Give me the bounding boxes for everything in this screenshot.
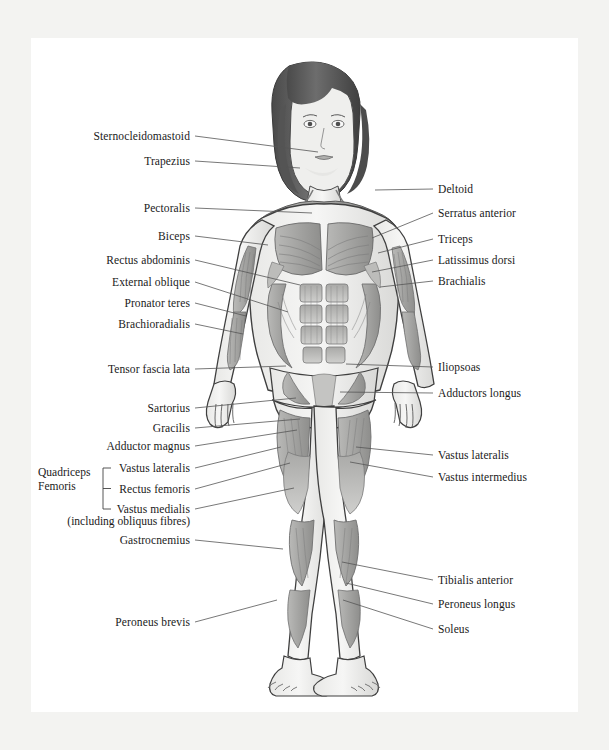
- leader-line: [378, 239, 433, 253]
- muscle-label: Iliopsoas: [438, 361, 480, 374]
- leader-line: [343, 600, 433, 629]
- leader-line: [372, 213, 433, 238]
- muscle-label: Gracilis: [153, 422, 190, 435]
- muscle-label: Peroneus brevis: [115, 616, 190, 629]
- leader-line: [195, 540, 283, 549]
- leader-line: [195, 463, 290, 489]
- quadriceps-femoris-group-label: Quadriceps Femoris: [38, 465, 90, 493]
- leader-line: [342, 562, 433, 580]
- obliquus-fibres-note: (including obliquus fibres): [67, 515, 190, 527]
- leader-line: [195, 260, 300, 285]
- leader-line: [195, 136, 318, 152]
- muscle-label: Vastus lateralis: [119, 462, 190, 475]
- leader-lines: [0, 0, 609, 750]
- muscle-label: Tensor fascia lata: [108, 363, 190, 376]
- quadriceps-femoris-line-1: Quadriceps: [38, 465, 90, 479]
- muscle-label: Sartorius: [148, 402, 190, 415]
- anatomy-figure: SternocleidomastoidTrapeziusPectoralisBi…: [0, 0, 609, 750]
- muscle-label: Deltoid: [438, 183, 473, 196]
- muscle-label: Sternocleidomastoid: [94, 130, 190, 143]
- quadriceps-femoris-line-2: Femoris: [38, 479, 90, 493]
- muscle-label: Triceps: [438, 233, 473, 246]
- muscle-label: Vastus lateralis: [438, 449, 509, 462]
- leader-line: [195, 600, 277, 622]
- muscle-label: Rectus abdominis: [106, 254, 190, 267]
- muscle-label: Vastus intermedius: [438, 471, 527, 484]
- muscle-label: Serratus anterior: [438, 207, 516, 220]
- leader-line: [195, 488, 294, 509]
- muscle-label: Adductors longus: [438, 387, 521, 400]
- muscle-label: Adductor magnus: [106, 440, 190, 453]
- leader-line: [350, 462, 433, 477]
- leader-line: [195, 398, 296, 408]
- leader-line: [372, 260, 433, 272]
- leader-line: [380, 281, 433, 287]
- leader-line: [195, 208, 312, 213]
- leader-line: [195, 447, 281, 468]
- muscle-label: Biceps: [158, 230, 190, 243]
- muscle-label: External oblique: [112, 276, 190, 289]
- leader-line: [195, 282, 288, 312]
- muscle-label: Pronator teres: [124, 297, 190, 310]
- leader-line: [375, 189, 433, 190]
- leader-line: [195, 366, 286, 369]
- muscle-label: Gastrocnemius: [120, 534, 190, 547]
- muscle-label: Peroneus longus: [438, 598, 515, 611]
- leader-line: [340, 392, 433, 393]
- leader-line: [195, 324, 243, 334]
- leader-line: [195, 236, 268, 245]
- muscle-label: Soleus: [438, 623, 469, 636]
- leader-line: [195, 303, 246, 316]
- muscle-label: Tibialis anterior: [438, 574, 513, 587]
- leader-line: [195, 419, 300, 428]
- leader-line: [195, 161, 300, 168]
- leader-line: [356, 447, 433, 455]
- leader-line: [195, 430, 297, 446]
- muscle-label: Latissimus dorsi: [438, 254, 515, 267]
- muscle-label: Vastus medialis: [117, 503, 190, 516]
- muscle-label: Rectus femoris: [119, 483, 190, 496]
- muscle-label: Pectoralis: [144, 202, 190, 215]
- muscle-label: Trapezius: [144, 155, 190, 168]
- leader-line: [346, 583, 433, 604]
- leader-line: [346, 364, 433, 367]
- muscle-label: Brachialis: [438, 275, 486, 288]
- muscle-label: Brachioradialis: [118, 318, 190, 331]
